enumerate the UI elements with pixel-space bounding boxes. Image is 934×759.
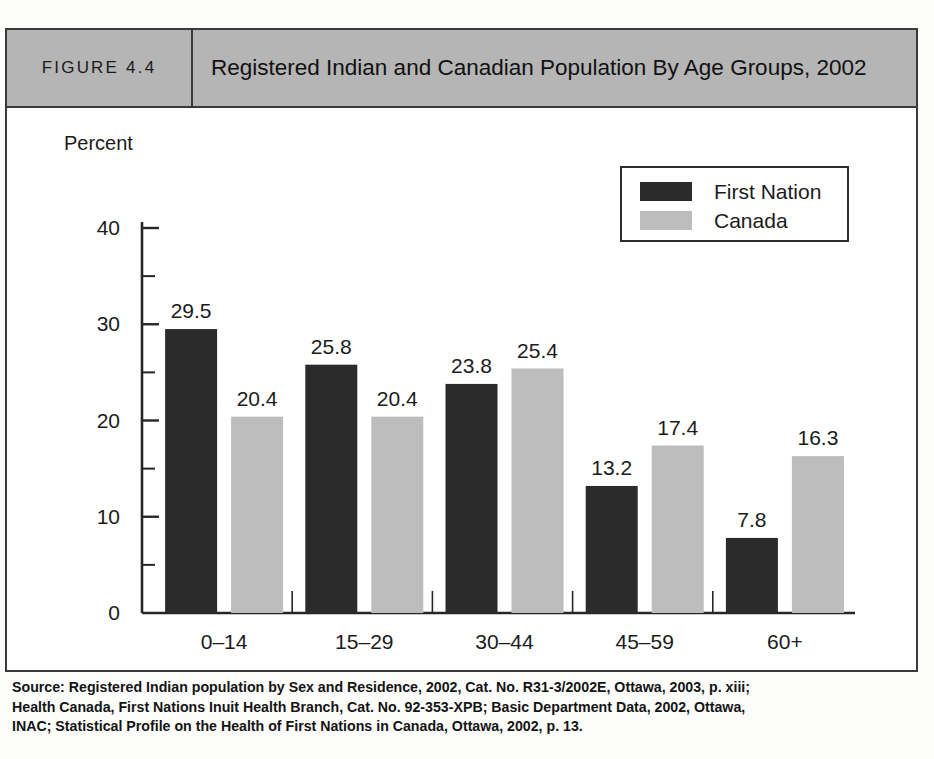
bar-first-nation xyxy=(726,538,778,613)
x-tick-label: 45–59 xyxy=(615,630,673,653)
bar-value-label: 20.4 xyxy=(377,387,418,410)
bar-canada xyxy=(512,369,564,613)
figure-number-cell: FIGURE 4.4 xyxy=(7,30,193,106)
source-note: Source: Registered Indian population by … xyxy=(12,678,932,737)
figure-title: Registered Indian and Canadian Populatio… xyxy=(211,53,866,83)
legend-item-canada: Canada xyxy=(640,206,847,235)
bar-first-nation xyxy=(586,486,638,613)
legend-swatch-canada xyxy=(640,211,692,230)
figure-number-label: FIGURE 4.4 xyxy=(42,58,157,78)
x-tick-label: 30–44 xyxy=(475,630,534,653)
bar-canada xyxy=(792,456,844,613)
figure-header-band: FIGURE 4.4 Registered Indian and Canadia… xyxy=(7,30,916,108)
bar-first-nation xyxy=(446,384,498,613)
bar-value-label: 20.4 xyxy=(237,387,278,410)
legend-label-first-nation: First Nation xyxy=(714,180,821,204)
bar-value-label: 17.4 xyxy=(657,416,698,439)
x-tick-label: 60+ xyxy=(767,630,803,653)
x-tick-label: 15–29 xyxy=(335,630,393,653)
chart-plot-area: 010203040Percent0–1415–2930–4445–5960+Ag… xyxy=(7,108,916,672)
y-tick-label: 0 xyxy=(108,601,120,624)
figure-title-cell: Registered Indian and Canadian Populatio… xyxy=(193,30,916,106)
chart-bars xyxy=(165,329,844,613)
bar-canada xyxy=(231,417,283,613)
bar-first-nation xyxy=(305,365,357,613)
source-line-3: INAC; Statistical Profile on the Health … xyxy=(12,717,932,737)
bar-value-label: 7.8 xyxy=(737,508,766,531)
legend-item-first-nation: First Nation xyxy=(640,177,847,206)
bar-value-label: 23.8 xyxy=(451,354,492,377)
bar-value-label: 29.5 xyxy=(171,299,212,322)
x-tick-label: 0–14 xyxy=(201,630,248,653)
bar-value-label: 16.3 xyxy=(797,426,838,449)
y-tick-label: 10 xyxy=(97,505,120,528)
bar-value-label: 25.4 xyxy=(517,339,558,362)
y-axis-unit-label: Percent xyxy=(64,132,133,154)
bar-value-label: 13.2 xyxy=(591,456,632,479)
y-tick-label: 20 xyxy=(97,409,120,432)
bar-canada xyxy=(652,446,704,613)
source-line-1: Source: Registered Indian population by … xyxy=(12,678,932,698)
legend-swatch-first-nation xyxy=(640,182,692,201)
y-tick-label: 30 xyxy=(97,312,120,335)
bar-canada xyxy=(371,417,423,613)
chart-legend: First Nation Canada xyxy=(620,166,849,242)
y-tick-label: 40 xyxy=(97,216,120,239)
figure-frame: FIGURE 4.4 Registered Indian and Canadia… xyxy=(5,28,918,672)
source-line-2: Health Canada, First Nations Inuit Healt… xyxy=(12,698,932,718)
legend-label-canada: Canada xyxy=(714,209,788,233)
bar-value-label: 25.8 xyxy=(311,335,352,358)
bar-first-nation xyxy=(165,329,217,613)
